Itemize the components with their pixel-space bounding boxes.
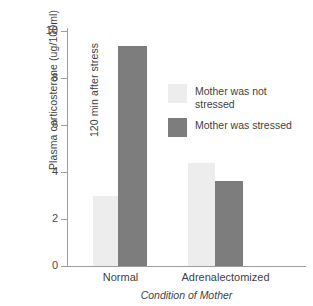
legend-label-not-stressed: Mother was not stressed xyxy=(195,84,267,110)
bar-normal-stressed xyxy=(118,46,147,266)
y-tick-4 xyxy=(61,172,67,173)
legend-item-not-stressed: Mother was not stressed xyxy=(168,84,308,110)
y-tick-8 xyxy=(61,78,67,79)
legend-item-stressed: Mother was stressed xyxy=(168,118,308,137)
bar-normal-not-stressed xyxy=(93,196,118,267)
legend: Mother was not stressed Mother was stres… xyxy=(168,84,308,145)
x-group-label-adrenalectomized: Adrenalectomized xyxy=(163,271,288,284)
legend-swatch-dark-icon xyxy=(168,118,187,137)
legend-label-line1: Mother was not xyxy=(195,85,267,97)
bar-adrenalectomized-not-stressed xyxy=(188,163,215,266)
y-tick-6 xyxy=(61,125,67,126)
legend-label-line2: stressed xyxy=(195,98,235,110)
y-tick-label-0: 0 xyxy=(18,260,58,271)
legend-label-stressed: Mother was stressed xyxy=(195,118,292,132)
y-tick-0 xyxy=(61,266,67,267)
y-tick-10 xyxy=(61,31,67,32)
y-tick-label-10: 10 xyxy=(18,25,58,36)
bar-adrenalectomized-stressed xyxy=(215,181,243,266)
bar-chart: Plasma corticosterone (ug/100ml) 120 min… xyxy=(0,0,313,306)
y-tick-label-6: 6 xyxy=(18,119,58,130)
legend-swatch-light-icon xyxy=(168,84,187,103)
y-tick-2 xyxy=(61,219,67,220)
y-axis-title-line2: 120 min after stress xyxy=(88,0,102,200)
x-axis-line xyxy=(67,266,306,267)
y-tick-label-8: 8 xyxy=(18,72,58,83)
y-tick-label-2: 2 xyxy=(18,213,58,224)
x-group-label-normal: Normal xyxy=(73,271,168,284)
x-axis-title: Condition of Mother xyxy=(67,289,306,301)
y-axis-line xyxy=(67,28,68,267)
y-tick-label-4: 4 xyxy=(18,166,58,177)
